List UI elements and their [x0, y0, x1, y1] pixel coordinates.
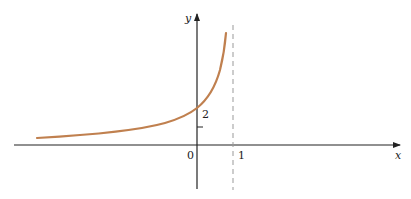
origin-label: 0	[187, 149, 194, 162]
graph-canvas: y x 0 1 2	[0, 0, 411, 199]
function-curve	[37, 33, 226, 138]
y-axis-label: y	[184, 12, 192, 25]
asymptote-label: 1	[238, 149, 245, 162]
x-axis-label: x	[395, 149, 402, 162]
y-intercept-label: 2	[202, 108, 209, 121]
